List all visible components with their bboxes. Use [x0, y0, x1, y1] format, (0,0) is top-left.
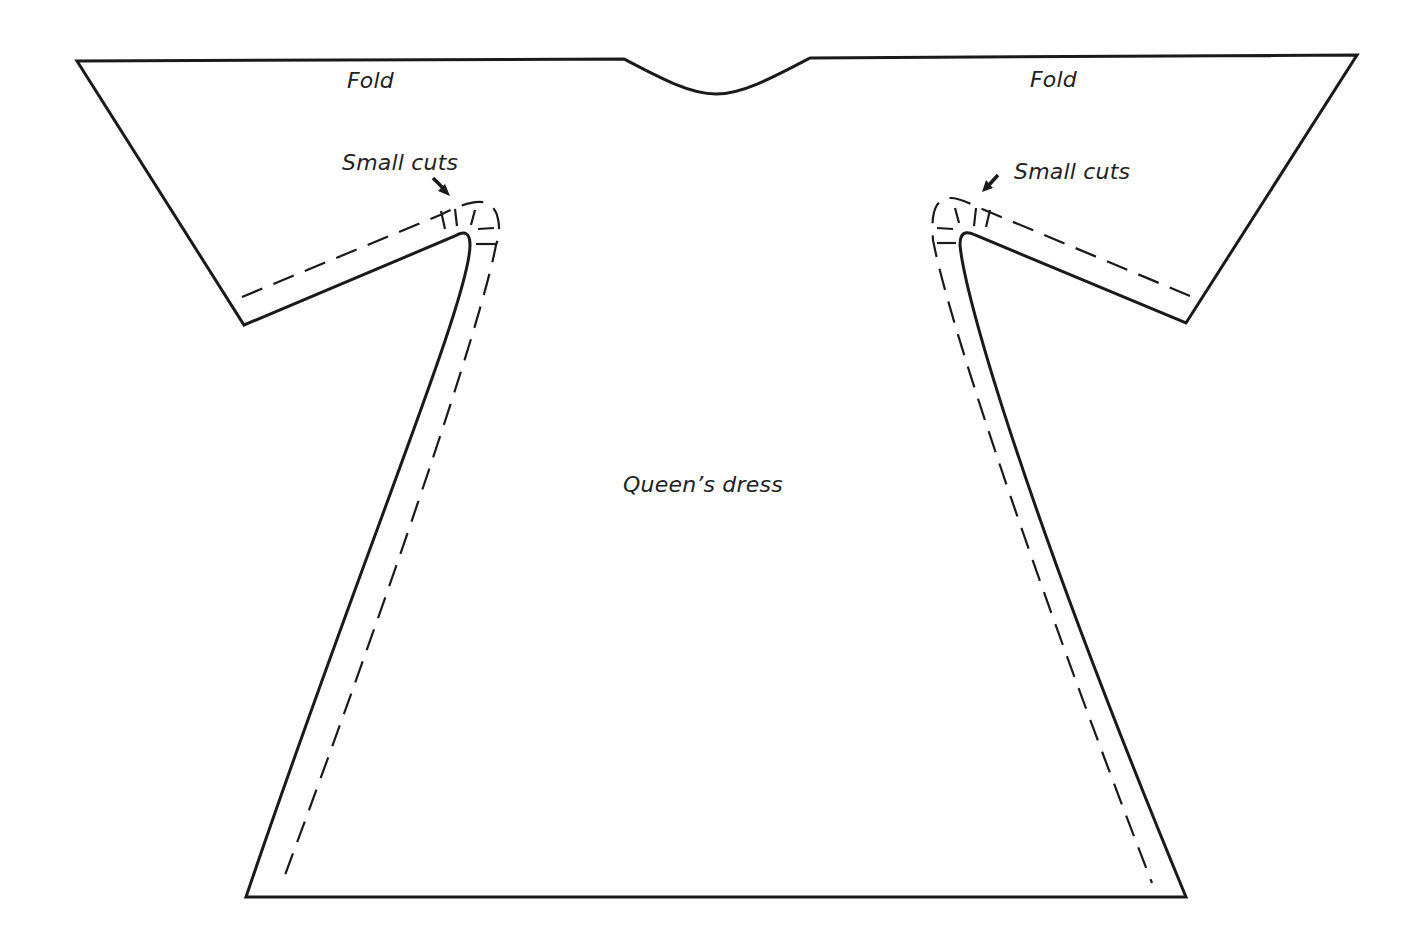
fold-label-left: Fold	[347, 68, 394, 93]
left-seam-line	[242, 202, 499, 883]
small-cuts-label-left: Small cuts	[342, 150, 458, 175]
right-arrow-icon	[982, 175, 998, 192]
pattern-diagram: Fold Fold Small cuts Small cuts Queen’s …	[0, 0, 1425, 944]
small-cuts-label-right: Small cuts	[1014, 159, 1130, 184]
center-label: Queen’s dress	[623, 472, 783, 497]
left-arrow-icon	[433, 178, 450, 196]
fold-label-right: Fold	[1030, 67, 1077, 92]
